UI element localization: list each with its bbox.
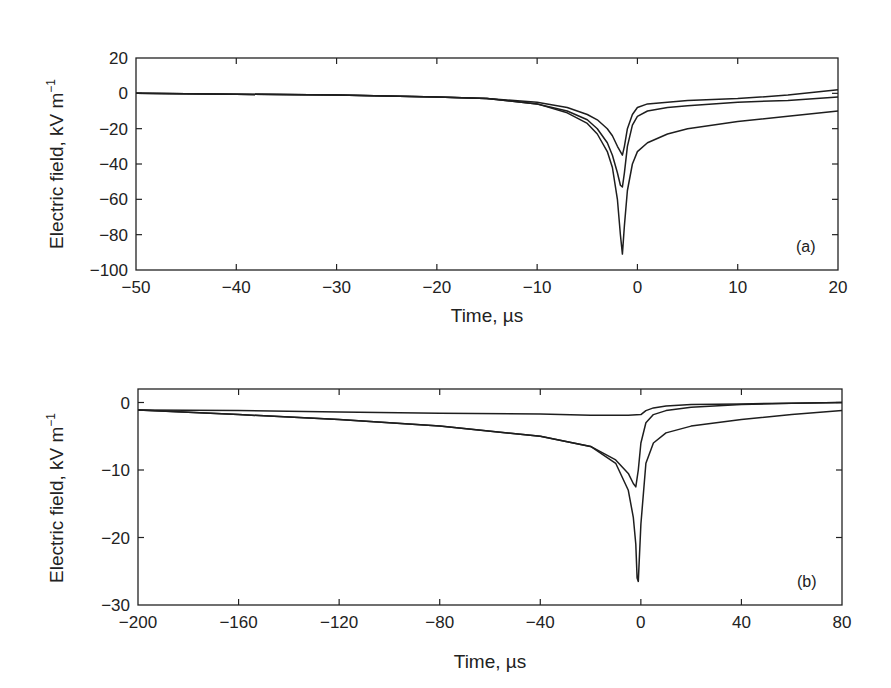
y-tick-label: 0 xyxy=(119,84,128,103)
x-tick-label: −40 xyxy=(222,278,251,297)
y-tick-label: −30 xyxy=(101,596,130,615)
x-tick-label: −200 xyxy=(119,613,157,632)
x-tick-label: −120 xyxy=(320,613,358,632)
y-axis-title-b: Electric field, kV m−1 xyxy=(44,413,67,583)
y-tick-label: −80 xyxy=(99,226,128,245)
x-tick-label: 0 xyxy=(633,278,642,297)
panel-a: −50−40−30−20−1001020 200−20−40−60−80−100… xyxy=(44,49,847,326)
y-axis-title-a-sup: −1 xyxy=(44,79,58,93)
x-tick-label: 80 xyxy=(833,613,852,632)
x-tick-label: −80 xyxy=(425,613,454,632)
x-tick-label: 0 xyxy=(636,613,645,632)
y-tick-label: −60 xyxy=(99,190,128,209)
x-tick-label: 40 xyxy=(732,613,751,632)
y-axis-title-a: Electric field, kV m−1 xyxy=(44,79,67,249)
figure: −50−40−30−20−1001020 200−20−40−60−80−100… xyxy=(0,0,891,688)
y-tick-labels-a: 200−20−40−60−80−100 xyxy=(90,49,128,280)
x-axis-title-a: Time, µs xyxy=(451,305,524,326)
y-tick-label: 20 xyxy=(109,49,128,68)
x-tick-label: 20 xyxy=(829,278,848,297)
panel-b: −200−160−120−80−4004080 0−10−20−30 (b) T… xyxy=(44,389,851,672)
x-tick-label: 10 xyxy=(728,278,747,297)
y-tick-label: −20 xyxy=(99,120,128,139)
x-tick-label: −160 xyxy=(219,613,257,632)
x-tick-labels-b: −200−160−120−80−4004080 xyxy=(119,613,852,632)
x-tick-labels-a: −50−40−30−20−1001020 xyxy=(122,278,848,297)
panel-tag-a: (a) xyxy=(796,238,816,255)
x-axis-title-b: Time, µs xyxy=(454,651,527,672)
y-axis-title-b-sup: −1 xyxy=(44,413,58,427)
axis-ticks-b xyxy=(138,389,842,605)
plot-frame-b xyxy=(138,389,842,605)
x-tick-label: −50 xyxy=(122,278,151,297)
y-tick-label: −40 xyxy=(99,155,128,174)
y-axis-title-a-text: Electric field, kV m xyxy=(46,93,67,249)
x-tick-label: −20 xyxy=(422,278,451,297)
y-tick-label: −20 xyxy=(101,529,130,548)
y-tick-labels-b: 0−10−20−30 xyxy=(101,394,130,616)
series-trace-3 xyxy=(136,93,838,254)
plot-frame-a xyxy=(136,58,838,270)
y-tick-label: 0 xyxy=(121,394,130,413)
panel-tag-b: (b) xyxy=(797,573,817,590)
x-tick-label: −10 xyxy=(523,278,552,297)
data-lines-b xyxy=(138,403,842,582)
y-axis-title-b-text: Electric field, kV m xyxy=(46,427,67,583)
x-tick-label: −40 xyxy=(526,613,555,632)
axis-ticks-a xyxy=(136,58,838,270)
series-trace-2 xyxy=(136,93,838,187)
y-tick-label: −100 xyxy=(90,261,128,280)
y-tick-label: −10 xyxy=(101,461,130,480)
x-tick-label: −30 xyxy=(322,278,351,297)
data-lines-a xyxy=(136,90,838,254)
series-trace-3 xyxy=(138,410,842,582)
